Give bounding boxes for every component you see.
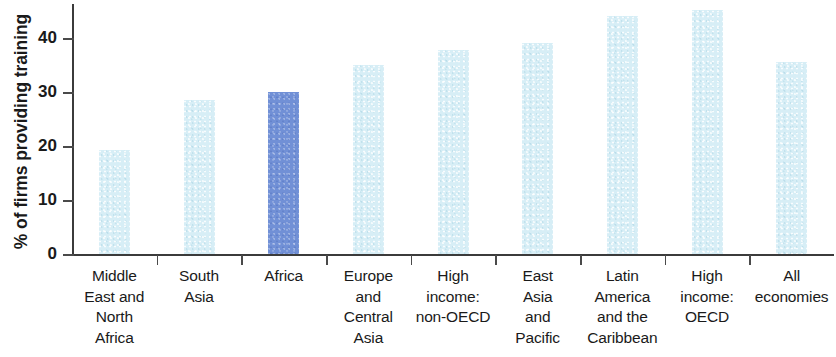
x-axis-label: Alleconomies: [749, 266, 834, 307]
bar: [607, 16, 638, 254]
x-axis-label: EuropeandCentralAsia: [326, 266, 411, 348]
x-axis-label-line: High: [411, 266, 496, 287]
x-axis-label-line: and the: [580, 307, 665, 328]
bar: [268, 92, 299, 254]
x-axis-line: [72, 254, 834, 256]
x-axis-label-line: Caribbean: [580, 328, 665, 349]
x-axis-label-line: Middle: [72, 266, 157, 287]
x-tick-7: [665, 255, 667, 265]
x-axis-label: Highincome:non-OECD: [411, 266, 496, 328]
x-axis-label-line: America: [580, 287, 665, 308]
x-axis-label-line: and: [326, 287, 411, 308]
x-axis-label-line: All: [749, 266, 834, 287]
x-axis-label-line: South: [157, 266, 242, 287]
bar: [99, 150, 130, 254]
x-axis-label-line: East and: [72, 287, 157, 308]
x-axis-label: Africa: [241, 266, 326, 287]
y-tick-label: 20: [38, 136, 57, 156]
y-tick-40: 40: [63, 38, 74, 40]
x-tick-3: [326, 255, 328, 265]
x-axis-label-line: Pacific: [495, 328, 580, 349]
x-axis-label-line: Central: [326, 307, 411, 328]
x-axis-label: EastAsiaandPacific: [495, 266, 580, 348]
x-tick-1: [157, 255, 159, 265]
x-axis-label: Highincome:OECD: [665, 266, 750, 328]
y-tick-label: 10: [38, 190, 57, 210]
x-axis-label-line: non-OECD: [411, 307, 496, 328]
x-tick-2: [241, 255, 243, 265]
bar: [353, 65, 384, 254]
x-axis-label-line: OECD: [665, 307, 750, 328]
plot-area: 010203040: [44, 4, 836, 260]
x-axis-label: MiddleEast andNorthAfrica: [72, 266, 157, 348]
x-axis-label-line: economies: [749, 287, 834, 308]
x-axis-label-line: Africa: [72, 328, 157, 349]
x-axis-label-line: North: [72, 307, 157, 328]
x-tick-8: [749, 255, 751, 265]
x-axis-label-line: and: [495, 307, 580, 328]
y-tick-20: 20: [63, 146, 74, 148]
y-tick-10: 10: [63, 200, 74, 202]
x-axis-label: SouthAsia: [157, 266, 242, 307]
x-tick-5: [495, 255, 497, 265]
x-axis-label-line: East: [495, 266, 580, 287]
y-tick-label: 40: [38, 28, 57, 48]
x-axis-labels: MiddleEast andNorthAfricaSouthAsiaAfrica…: [44, 266, 836, 357]
x-axis-label-line: Asia: [495, 287, 580, 308]
x-axis-label-line: Latin: [580, 266, 665, 287]
bar-chart: % of firms providing training 010203040 …: [0, 0, 836, 357]
x-axis-label-line: Europe: [326, 266, 411, 287]
y-tick-label: 30: [38, 82, 57, 102]
x-axis-label-line: High: [665, 266, 750, 287]
bar: [438, 50, 469, 254]
x-axis-label-line: Asia: [326, 328, 411, 349]
bar: [184, 100, 215, 254]
x-axis-label: LatinAmericaand theCaribbean: [580, 266, 665, 348]
y-tick-label: 0: [48, 244, 57, 264]
y-axis-title-text: % of firms providing training: [12, 13, 33, 248]
x-tick-6: [580, 255, 582, 265]
x-axis-label-line: Africa: [241, 266, 326, 287]
y-tick-0: 0: [63, 254, 74, 256]
bar: [692, 10, 723, 254]
y-axis-line: [72, 4, 74, 255]
x-axis-label-line: income:: [665, 287, 750, 308]
x-axis-label-line: income:: [411, 287, 496, 308]
bar: [776, 62, 807, 254]
bar: [522, 43, 553, 254]
x-tick-4: [411, 255, 413, 265]
y-tick-30: 30: [63, 92, 74, 94]
x-axis-label-line: Asia: [157, 287, 242, 308]
